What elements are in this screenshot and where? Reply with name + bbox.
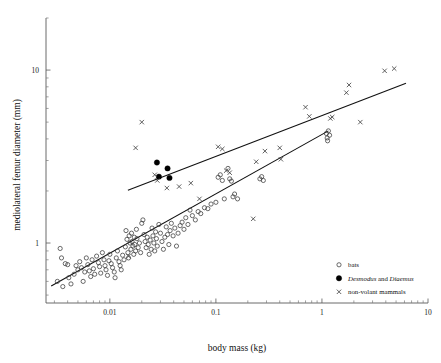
data-point-open-circle [59, 256, 63, 260]
data-point-open-circle [167, 242, 171, 246]
data-point-open-circle [110, 266, 114, 270]
data-point-cross [307, 114, 311, 118]
data-point-open-circle [90, 258, 94, 262]
data-point-open-circle [222, 197, 226, 201]
data-point-open-circle [119, 268, 123, 272]
scatter-plot: 0.010.1110110 body mass (kg) mediolatera… [0, 0, 441, 363]
data-point-cross [278, 146, 282, 150]
data-point-open-circle [169, 221, 173, 225]
data-point-cross [153, 173, 157, 177]
data-point-open-circle [129, 231, 133, 235]
data-point-open-circle [93, 272, 97, 276]
data-point-open-circle [121, 253, 125, 257]
data-point-open-circle [155, 244, 159, 248]
data-point-open-circle [123, 245, 127, 249]
legend-item-bats[interactable]: bats [337, 261, 359, 268]
x-axis-title: body mass (kg) [208, 343, 267, 354]
data-point-cross [263, 149, 267, 153]
data-point-cross [140, 120, 144, 124]
data-point-open-circle [152, 241, 156, 245]
legend-item-nonvolant[interactable]: non-volant mammals [337, 288, 406, 295]
data-point-open-circle [102, 258, 106, 262]
data-point-cross [254, 160, 258, 164]
legend-marker-open-circle [337, 263, 341, 267]
data-point-cross [165, 186, 169, 190]
data-point-open-circle [61, 284, 65, 288]
data-point-open-circle [69, 282, 73, 286]
data-point-open-circle [104, 268, 108, 272]
data-point-open-circle [190, 214, 194, 218]
data-point-open-circle [153, 230, 157, 234]
x-tick-label: 1 [320, 308, 324, 317]
data-point-cross [382, 69, 386, 73]
data-point-cross [216, 145, 220, 149]
legend-item-desmodus[interactable]: Desmodus and Diaemus [336, 275, 414, 282]
data-point-open-circle [103, 264, 107, 268]
data-point-open-circle [114, 256, 118, 260]
data-point-open-circle [153, 249, 157, 253]
data-point-open-circle [58, 246, 62, 250]
legend-label: bats [348, 261, 359, 268]
data-point-cross [220, 147, 224, 151]
data-point-open-circle [87, 269, 91, 273]
data-point-open-circle [139, 251, 143, 255]
data-point-open-circle [193, 218, 197, 222]
data-point-cross [303, 105, 307, 109]
data-point-cross [189, 181, 193, 185]
data-point-open-circle [176, 231, 180, 235]
y-tick-label: 1 [35, 239, 39, 248]
data-point-open-circle [174, 244, 178, 248]
legend-label: Desmodus and Diaemus [347, 275, 414, 282]
data-point-open-circle [112, 270, 116, 274]
x-tick-label: 0.01 [103, 308, 116, 317]
data-point-filled-circle [165, 166, 170, 171]
regression-line [51, 131, 328, 286]
data-point-open-circle [184, 216, 188, 220]
data-point-open-circle [173, 226, 177, 230]
y-axis-title-text: mediolateral femur diameter (mm) [12, 99, 23, 231]
data-point-open-circle [160, 239, 164, 243]
x-axis-title-text: body mass (kg) [208, 343, 267, 354]
data-point-cross [358, 120, 362, 124]
data-point-open-circle [165, 232, 169, 236]
axes: 0.010.1110110 [32, 18, 433, 317]
data-point-open-circle [122, 258, 126, 262]
data-point-open-circle [100, 251, 104, 255]
y-axis-title: mediolateral femur diameter (mm) [12, 99, 23, 231]
data-point-cross [177, 184, 181, 188]
data-point-open-circle [118, 264, 122, 268]
data-point-open-circle [83, 270, 87, 274]
legend-label: non-volant mammals [348, 288, 406, 295]
data-point-cross [344, 90, 348, 94]
data-point-open-circle [117, 260, 121, 264]
data-point-cross [197, 197, 201, 201]
data-point-open-circle [325, 139, 329, 143]
data-point-open-circle [127, 234, 131, 238]
data-point-open-circle [124, 228, 128, 232]
data-point-open-circle [94, 254, 98, 258]
series-desmodus-and-diaemus [154, 160, 172, 181]
data-point-open-circle [146, 242, 150, 246]
y-tick-label: 10 [32, 66, 40, 75]
series-non-volant-mammals [126, 66, 396, 258]
data-point-open-circle [81, 279, 85, 283]
data-point-open-circle [164, 225, 168, 229]
data-point-open-circle [220, 178, 224, 182]
data-point-cross [133, 146, 137, 150]
data-point-open-circle [84, 256, 88, 260]
data-point-open-circle [113, 276, 117, 280]
data-point-open-circle [78, 260, 82, 264]
legend-marker-cross [337, 290, 341, 294]
x-tick-label: 0.1 [211, 308, 221, 317]
data-point-open-circle [209, 202, 213, 206]
data-point-open-circle [99, 271, 103, 275]
data-point-filled-circle [167, 175, 172, 180]
x-tick-label: 10 [424, 308, 432, 317]
data-point-cross [330, 115, 334, 119]
data-point-open-circle [134, 227, 138, 231]
regression-line [128, 83, 406, 190]
data-point-open-circle [186, 222, 190, 226]
data-point-open-circle [235, 197, 239, 201]
data-point-open-circle [74, 264, 78, 268]
legend: batsDesmodus and Diaemusnon-volant mamma… [336, 261, 414, 295]
